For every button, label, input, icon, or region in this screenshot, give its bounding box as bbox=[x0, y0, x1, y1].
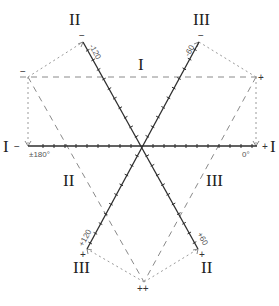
projection-II-negative bbox=[28, 42, 83, 77]
einthoven-triangle bbox=[20, 77, 263, 282]
label-left-I: I bbox=[3, 137, 9, 156]
region-label-right: III bbox=[206, 171, 223, 190]
angle-label-0: 0° bbox=[242, 150, 250, 159]
label-top-right-III: III bbox=[193, 10, 210, 29]
angle-label-minus-120: -120 bbox=[87, 43, 103, 62]
projection-III-negative bbox=[199, 42, 256, 77]
label-bottom-right-II: II bbox=[201, 258, 213, 277]
region-label-left: II bbox=[63, 171, 75, 190]
angle-label-minus-60: -60 bbox=[183, 43, 197, 58]
arrowhead-icon bbox=[193, 249, 198, 254]
projection-II-positive bbox=[144, 249, 198, 282]
hexaxial-diagram: II III I I III II I II III − − − + − + +… bbox=[0, 0, 279, 306]
projection-III-positive bbox=[87, 249, 144, 282]
sign-bottom-left: + bbox=[80, 249, 86, 260]
sign-top-right: − bbox=[198, 30, 204, 41]
sign-triangle-right: + bbox=[258, 72, 264, 83]
sign-triangle-left: − bbox=[20, 66, 26, 77]
sign-top-left: − bbox=[79, 30, 85, 41]
triangle-left-edge bbox=[28, 77, 144, 282]
sign-bottom-apex: ++ bbox=[137, 283, 149, 294]
region-label-top: I bbox=[138, 55, 144, 74]
sign-right-axis: + bbox=[262, 141, 268, 152]
angle-label-plus-60: +60 bbox=[195, 231, 210, 248]
sign-bottom-right: + bbox=[199, 249, 205, 260]
label-right-I: I bbox=[270, 137, 276, 156]
projection-lines bbox=[28, 42, 256, 282]
angle-label-180: ±180° bbox=[29, 150, 50, 159]
diagram-canvas: II III I I III II I II III − − − + − + +… bbox=[0, 0, 279, 306]
label-top-left-II: II bbox=[69, 10, 81, 29]
angle-label-plus-120: +120 bbox=[77, 227, 94, 248]
sign-left-axis: − bbox=[14, 141, 20, 152]
label-bottom-left-III: III bbox=[73, 258, 90, 277]
